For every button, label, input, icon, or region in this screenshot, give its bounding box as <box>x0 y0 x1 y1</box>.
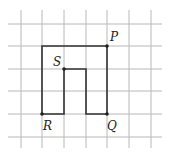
point-p-label: P <box>109 30 119 44</box>
grid-diagram: PQRS <box>0 0 170 155</box>
grid-lines <box>8 10 162 148</box>
point-q-label: Q <box>107 119 117 133</box>
point-r-label: R <box>42 119 52 133</box>
point-s-dot <box>62 67 66 71</box>
point-p-dot <box>105 44 109 48</box>
point-q-dot <box>105 112 109 116</box>
point-s-label: S <box>53 55 61 69</box>
l-shaped-figure <box>42 46 107 114</box>
point-r-dot <box>40 112 44 116</box>
